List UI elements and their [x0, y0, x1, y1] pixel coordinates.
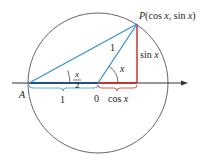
unit-circle-diagram: A P(cos x, sin x) 0 1 1 cos x sin x x x …: [0, 0, 205, 164]
segment-op: [98, 24, 137, 83]
brace-cos: [98, 85, 137, 91]
angle-x-arc: [109, 66, 118, 83]
diagram-canvas: [0, 0, 205, 164]
brace-ao: [29, 85, 98, 91]
radius-label: 1: [110, 43, 115, 53]
half-angle-numerator: x: [75, 70, 79, 79]
origin-label: 0: [94, 94, 99, 104]
half-angle-arc: [68, 71, 70, 84]
angle-x-label: x: [120, 64, 124, 74]
half-angle-denominator: 2: [75, 81, 80, 90]
point-p-label: P(cos x, sin x): [139, 11, 196, 21]
point-a-label: A: [19, 90, 25, 100]
sin-label: sin x: [140, 50, 159, 60]
segment-ao-label: 1: [60, 95, 65, 105]
segment-ap: [29, 24, 137, 83]
axis-arrow-icon: [181, 81, 188, 86]
cos-label: cos x: [108, 94, 128, 104]
